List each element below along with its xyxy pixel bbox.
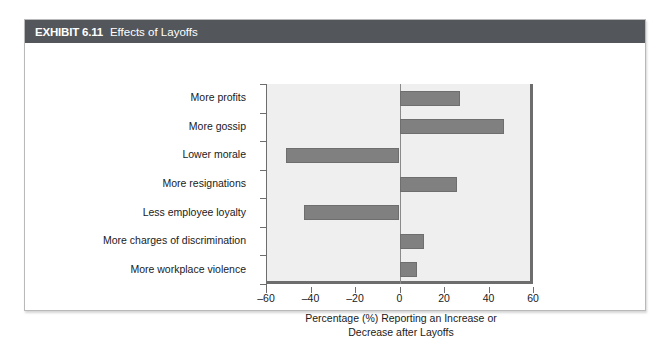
exhibit-number-label: EXHIBIT 6.11 bbox=[35, 26, 103, 38]
x-axis-title-line1: Percentage (%) Reporting an Increase or bbox=[266, 311, 536, 325]
y-axis-label: Lower morale bbox=[182, 148, 258, 160]
x-axis-tick-label: 0 bbox=[397, 292, 403, 304]
y-axis-category-labels: More profitsMore gossipLower moraleMore … bbox=[25, 84, 258, 284]
bar bbox=[400, 119, 505, 134]
exhibit-container: EXHIBIT 6.11 Effects of Layoffs More pro… bbox=[24, 19, 646, 311]
bar bbox=[400, 262, 418, 277]
bar bbox=[286, 148, 399, 163]
y-axis-label: Less employee loyalty bbox=[143, 206, 258, 218]
y-axis-label: More gossip bbox=[189, 120, 258, 132]
y-axis-tick bbox=[260, 284, 267, 285]
y-axis-line bbox=[266, 84, 267, 287]
bar bbox=[400, 177, 458, 192]
y-axis-tick bbox=[260, 170, 267, 171]
x-axis-title: Percentage (%) Reporting an Increase or … bbox=[266, 311, 536, 339]
x-axis-tick-label: –20 bbox=[346, 292, 364, 304]
x-axis-tick-label: –60 bbox=[257, 292, 275, 304]
x-axis-tick-label: –40 bbox=[302, 292, 320, 304]
bar bbox=[304, 205, 400, 220]
y-axis-label: More workplace violence bbox=[130, 263, 258, 275]
y-axis-tick bbox=[260, 227, 267, 228]
x-axis-tick-label: 60 bbox=[527, 292, 539, 304]
y-axis-label: More resignations bbox=[163, 177, 258, 189]
x-axis-tick-label: 40 bbox=[483, 292, 495, 304]
y-axis-tick bbox=[260, 141, 267, 142]
y-axis-tick bbox=[260, 84, 267, 85]
y-axis-label: More charges of discrimination bbox=[103, 234, 258, 246]
chart-figure: More profitsMore gossipLower moraleMore … bbox=[25, 43, 645, 311]
y-axis-tick bbox=[260, 198, 267, 199]
y-axis-tick bbox=[260, 255, 267, 256]
y-axis-tick bbox=[260, 113, 267, 114]
page-root: EXHIBIT 6.11 Effects of Layoffs More pro… bbox=[0, 0, 667, 353]
bar bbox=[400, 234, 424, 249]
exhibit-title: Effects of Layoffs bbox=[110, 26, 198, 38]
x-axis-tick-label: 20 bbox=[438, 292, 450, 304]
y-axis-label: More profits bbox=[191, 91, 258, 103]
x-axis-title-line2: Decrease after Layoffs bbox=[266, 325, 536, 339]
exhibit-header-bar: EXHIBIT 6.11 Effects of Layoffs bbox=[25, 20, 645, 43]
plot-area bbox=[266, 84, 533, 284]
bar bbox=[400, 91, 460, 106]
